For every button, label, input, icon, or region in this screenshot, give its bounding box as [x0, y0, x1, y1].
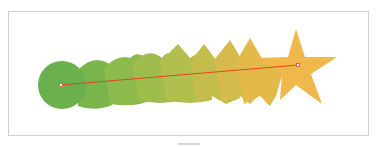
- anchor-start[interactable]: [60, 84, 63, 87]
- scroll-indicator: [178, 143, 200, 145]
- blend-step: [236, 38, 286, 106]
- anchor-end[interactable]: [297, 64, 300, 67]
- blend-illustration: [0, 0, 380, 147]
- blend-steps: [38, 29, 337, 109]
